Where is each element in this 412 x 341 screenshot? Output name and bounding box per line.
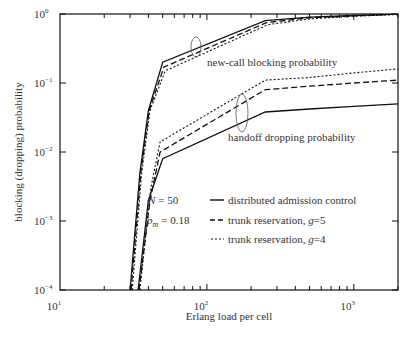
annotations: new-call blocking probability handoff dr… [191, 37, 356, 143]
param-n: N= 50 [147, 194, 179, 206]
annotation-new-call: new-call blocking probability [207, 56, 338, 68]
series-line [140, 69, 398, 290]
x-tick-label: 101 [47, 299, 62, 312]
x-tick-label: 103 [341, 299, 356, 312]
y-tick-label: 10−1 [34, 76, 53, 89]
y-tick-label: 10−3 [34, 214, 53, 227]
param-pm: pm= 0.18 [146, 214, 190, 229]
handoff-ellipse [236, 94, 248, 132]
legend: N= 50 pm= 0.18 distributed admission con… [146, 194, 356, 245]
y-axis-label: blocking (dropping) probability [12, 82, 25, 222]
y-tick-label: 10−2 [34, 145, 53, 158]
annotation-handoff: handoff dropping probability [228, 131, 356, 143]
y-tick-label: 100 [34, 7, 49, 20]
tick-labels: 10110210310010−110−210−310−4 [34, 7, 356, 312]
legend-label-solid: distributed admission control [228, 194, 356, 206]
y-tick-label: 10−4 [34, 283, 53, 296]
x-axis-label: Erlang load per cell [186, 310, 272, 322]
chart: 10110210310010−110−210−310−4 new-call bl… [0, 0, 412, 341]
legend-label-dotted: trunk reservation, g=4 [228, 233, 326, 245]
legend-label-dashed: trunk reservation, g=5 [228, 214, 326, 226]
